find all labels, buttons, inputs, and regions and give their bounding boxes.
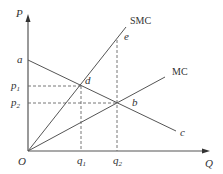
smc-label: SMC — [130, 15, 151, 26]
mc-label: MC — [172, 66, 188, 77]
x-axis-arrow-icon — [202, 149, 210, 154]
x-axis-label: Q — [205, 157, 213, 169]
point-c-label: c — [180, 126, 185, 138]
point-e-label: e — [124, 30, 129, 42]
p2-label: p2 — [10, 96, 21, 110]
point-b-label: b — [132, 96, 138, 108]
origin-label: O — [18, 155, 26, 167]
p1-label: p1 — [10, 79, 20, 93]
point-d-label: d — [85, 74, 91, 86]
y-axis-arrow-icon — [26, 14, 31, 22]
demand-curve — [28, 60, 176, 131]
smc-curve — [28, 27, 126, 151]
y-axis-label: P — [15, 7, 23, 19]
cost-curve-diagram: P Q O a c d b e SMC MC p1 p2 q1 q2 — [0, 0, 223, 174]
q1-label: q1 — [77, 154, 86, 168]
q2-label: q2 — [113, 154, 123, 168]
point-a-label: a — [17, 53, 23, 65]
mc-curve — [28, 77, 165, 151]
